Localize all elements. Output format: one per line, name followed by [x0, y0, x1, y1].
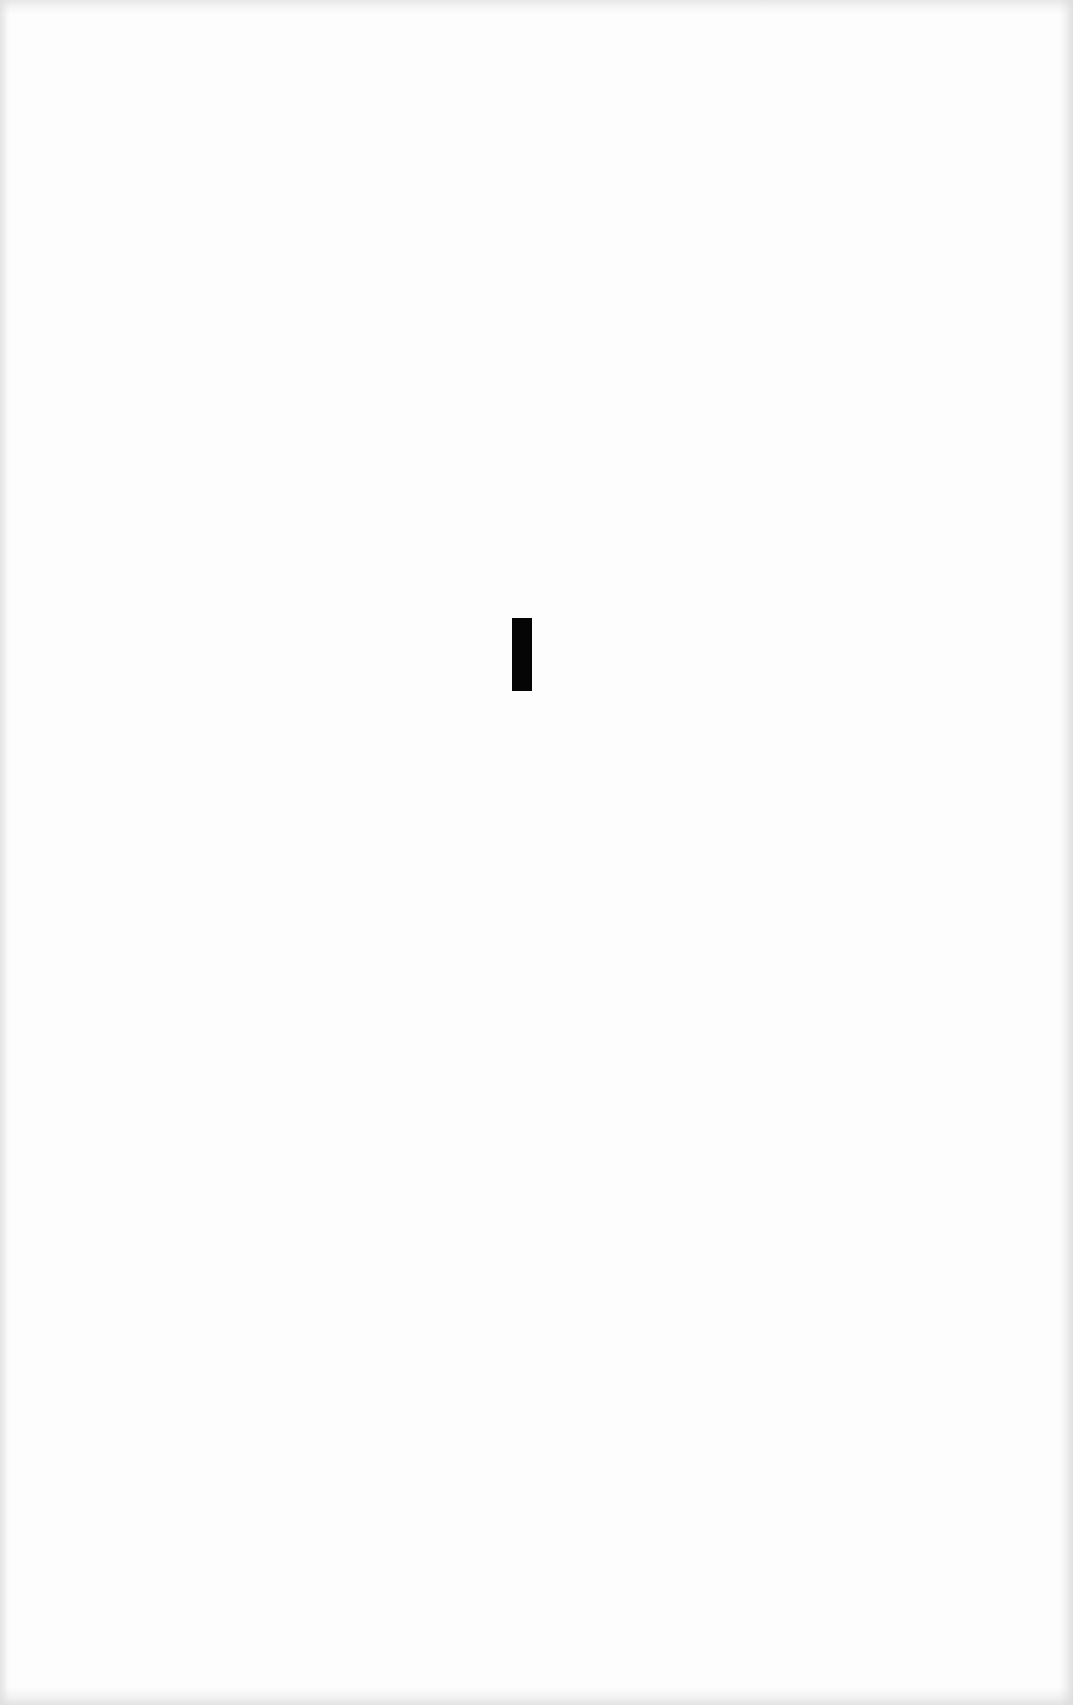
page-edge-right — [1059, 0, 1073, 1705]
part-numeral: I — [512, 618, 532, 691]
page-edge-top — [0, 0, 1073, 14]
scanned-page: I — [0, 0, 1073, 1705]
page-edge-bottom — [0, 1687, 1073, 1705]
page-edge-left — [0, 0, 10, 1705]
